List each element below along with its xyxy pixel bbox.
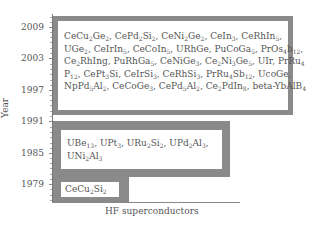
y-tick-minor <box>50 42 52 43</box>
group-1991-2009-materials: CeCu2Ge2, CePd2Si2, CeNi2Ge2, CeIn3, CeR… <box>64 30 306 93</box>
group-box-1991-2009-inner: CeCu2Ge2, CePd2Si2, CeNi2Ge2, CeIn3, CeR… <box>58 21 288 110</box>
group-box-1979-1991: UBe13, UPt3, URu2Si2, UPd2Al3, UNi2Al3 <box>53 121 230 177</box>
group-1979-materials: CeCu2Si2 <box>65 183 107 196</box>
group-box-1979: CeCu2Si2 <box>53 177 129 202</box>
group-box-1979-1991-inner: UBe13, UPt3, URu2Si2, UPd2Al3, UNi2Al3 <box>61 130 222 169</box>
y-tick-minor <box>50 85 52 86</box>
y-tick-major <box>49 184 52 185</box>
y-tick-major <box>49 58 52 59</box>
y-tick-label-2003: 2003 <box>6 53 44 63</box>
y-tick-minor <box>50 174 52 175</box>
y-tick-minor <box>50 200 52 201</box>
y-tick-minor <box>50 69 52 70</box>
y-tick-minor <box>50 143 52 144</box>
y-tick-label-1985: 1985 <box>6 148 44 158</box>
y-tick-label-1991: 1991 <box>6 116 44 126</box>
y-axis-title: Year <box>0 98 10 118</box>
y-tick-label-1979: 1979 <box>6 179 44 189</box>
y-tick-minor <box>50 163 52 164</box>
y-tick-minor <box>50 80 52 81</box>
y-tick-minor <box>50 37 52 38</box>
y-tick-minor <box>50 100 52 101</box>
y-tick-minor <box>50 189 52 190</box>
x-axis-title: HF superconductors <box>105 206 199 216</box>
group-1979-1991-materials: UBe13, UPt3, URu2Si2, UPd2Al3, UNi2Al3 <box>67 137 209 162</box>
y-tick-minor <box>50 48 52 49</box>
y-tick-minor <box>50 116 52 117</box>
y-tick-minor <box>50 158 52 159</box>
y-tick-minor <box>50 22 52 23</box>
y-tick-label-2009: 2009 <box>6 22 44 32</box>
y-tick-major <box>49 153 52 154</box>
y-tick-minor <box>50 32 52 33</box>
y-tick-minor <box>50 148 52 149</box>
group-box-1991-2009: CeCu2Ge2, CePd2Si2, CeNi2Ge2, CeIn3, CeR… <box>53 16 293 115</box>
y-tick-minor <box>50 132 52 133</box>
y-tick-minor <box>50 168 52 169</box>
y-tick-major <box>49 90 52 91</box>
y-tick-minor <box>50 53 52 54</box>
y-tick-minor <box>50 127 52 128</box>
y-tick-major <box>49 121 52 122</box>
y-tick-minor <box>50 105 52 106</box>
group-box-1979-inner: CeCu2Si2 <box>61 182 119 197</box>
y-tick-major <box>49 27 52 28</box>
y-tick-minor <box>50 64 52 65</box>
y-tick-minor <box>50 17 52 18</box>
x-axis-baseline <box>52 202 240 203</box>
y-tick-minor <box>50 111 52 112</box>
y-tick-minor <box>50 95 52 96</box>
y-tick-minor <box>50 195 52 196</box>
y-tick-minor <box>50 137 52 138</box>
y-tick-minor <box>50 74 52 75</box>
y-tick-label-1997: 1997 <box>6 85 44 95</box>
y-tick-minor <box>50 179 52 180</box>
